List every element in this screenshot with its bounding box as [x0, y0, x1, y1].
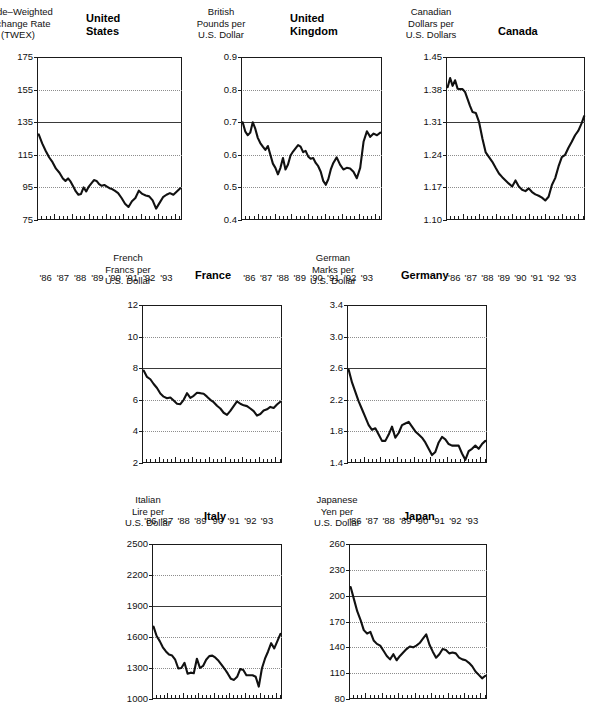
y-tick-label-italy: 2500 — [108, 539, 148, 549]
series-svg-united-states — [37, 57, 182, 220]
data-series-japan — [351, 587, 486, 678]
plot-area-france — [142, 305, 282, 463]
series-svg-france — [142, 305, 282, 463]
series-svg-italy — [152, 544, 282, 699]
y-tick-label-canada: 1.31 — [402, 117, 442, 127]
y-tick-label-japan: 260 — [305, 539, 345, 549]
panel-title-italy: Italy — [204, 510, 226, 523]
y-tick-label-france: 12 — [98, 300, 138, 310]
y-tick-label-united-states: 175 — [0, 52, 33, 62]
x-tick-label-canada: '92 — [547, 273, 559, 283]
y-tick-mark — [346, 596, 350, 597]
panel-france: French Francs per U.S. DollarFrance12108… — [100, 250, 300, 482]
y-tick-label-united-kingdom: 0.9 — [197, 52, 237, 62]
y-tick-mark — [344, 463, 348, 464]
series-svg-canada — [446, 57, 585, 220]
x-tick-label-united-states: '86 — [39, 273, 51, 283]
panel-title-canada: Canada — [498, 25, 538, 38]
y-axis-unit-label-united-kingdom: British Pounds per U.S. Dollar — [165, 6, 277, 41]
y-tick-mark — [139, 400, 143, 401]
data-series-canada — [448, 78, 585, 200]
y-tick-mark — [344, 431, 348, 432]
y-tick-label-france: 8 — [98, 363, 138, 373]
panel-header-united-kingdom: British Pounds per U.S. DollarUnited Kin… — [205, 4, 400, 52]
y-axis-unit-label-canada: Canadian Dollars per U.S. Dollars — [375, 6, 487, 41]
y-tick-mark — [139, 305, 143, 306]
panel-japan: Japanese Yen per U.S. DollarJapan2602302… — [305, 492, 505, 710]
y-tick-label-canada: 1.17 — [402, 182, 442, 192]
y-tick-mark — [443, 57, 447, 58]
plot-area-canada — [446, 57, 585, 220]
y-tick-label-united-states: 95 — [0, 182, 33, 192]
y-tick-label-france: 2 — [98, 458, 138, 468]
y-tick-label-italy: 2200 — [108, 570, 148, 580]
panel-header-france: French Francs per U.S. DollarFrance — [100, 250, 300, 298]
y-tick-mark — [149, 668, 153, 669]
y-tick-label-germany: 1.8 — [303, 426, 343, 436]
y-tick-mark — [34, 187, 38, 188]
y-tick-mark — [346, 647, 350, 648]
y-tick-mark — [346, 622, 350, 623]
y-tick-label-france: 10 — [98, 332, 138, 342]
y-tick-label-italy: 1300 — [108, 663, 148, 673]
y-tick-mark — [443, 155, 447, 156]
y-tick-mark — [139, 368, 143, 369]
y-tick-mark — [238, 220, 242, 221]
y-tick-label-japan: 170 — [305, 617, 345, 627]
panel-canada: Canadian Dollars per U.S. DollarsCanada1… — [405, 4, 593, 242]
data-series-united-states — [39, 134, 181, 208]
y-tick-mark — [149, 699, 153, 700]
y-tick-mark — [238, 122, 242, 123]
y-tick-label-united-states: 115 — [0, 150, 33, 160]
x-tick-label-united-states: '87 — [57, 273, 69, 283]
panel-header-italy: Italian Lire per U.S. DollarItaly — [100, 492, 300, 540]
panel-title-france: France — [195, 269, 231, 282]
y-tick-mark — [149, 606, 153, 607]
y-tick-mark — [346, 544, 350, 545]
y-tick-label-germany: 2.6 — [303, 363, 343, 373]
y-tick-mark — [149, 637, 153, 638]
data-series-france — [144, 371, 281, 416]
y-tick-mark — [238, 90, 242, 91]
plot-area-united-kingdom — [241, 57, 382, 220]
y-tick-label-germany: 1.4 — [303, 458, 343, 468]
panel-header-canada: Canadian Dollars per U.S. DollarsCanada — [405, 4, 593, 52]
plot-area-japan — [349, 544, 487, 699]
y-tick-mark — [344, 368, 348, 369]
x-tick-label-canada: '90 — [514, 273, 526, 283]
panel-italy: Italian Lire per U.S. DollarItaly2500220… — [100, 492, 300, 710]
y-tick-label-canada: 1.38 — [402, 85, 442, 95]
y-tick-mark — [238, 187, 242, 188]
y-tick-label-united-kingdom: 0.7 — [197, 117, 237, 127]
y-tick-label-france: 6 — [98, 395, 138, 405]
data-series-italy — [154, 627, 281, 687]
y-tick-mark — [346, 673, 350, 674]
y-tick-mark — [344, 400, 348, 401]
y-tick-label-united-states: 155 — [0, 85, 33, 95]
y-tick-label-united-kingdom: 0.5 — [197, 182, 237, 192]
y-tick-label-united-kingdom: 0.6 — [197, 150, 237, 160]
y-axis-unit-label-japan: Japanese Yen per U.S. Dollar — [281, 494, 393, 529]
data-series-united-kingdom — [243, 122, 381, 185]
y-axis-unit-label-france: French Francs per U.S. Dollar — [72, 252, 184, 287]
series-svg-united-kingdom — [241, 57, 382, 220]
y-tick-mark — [443, 220, 447, 221]
y-tick-label-japan: 200 — [305, 591, 345, 601]
y-axis-unit-label-germany: German Marks per U.S. Dollar — [277, 252, 389, 287]
y-tick-mark — [238, 57, 242, 58]
y-tick-label-france: 4 — [98, 426, 138, 436]
panel-title-germany: Germany — [401, 269, 449, 282]
y-tick-mark — [139, 431, 143, 432]
x-tick-label-canada: '91 — [531, 273, 543, 283]
y-tick-mark — [139, 337, 143, 338]
y-tick-mark — [149, 544, 153, 545]
y-tick-label-japan: 230 — [305, 565, 345, 575]
y-tick-mark — [238, 155, 242, 156]
y-tick-label-united-states: 135 — [0, 117, 33, 127]
series-svg-germany — [347, 305, 487, 463]
y-tick-mark — [346, 699, 350, 700]
panel-title-japan: Japan — [403, 510, 435, 523]
y-axis-unit-label-united-states: Trade–Weighted Exchange Rate (TWEX) — [0, 6, 74, 41]
y-tick-mark — [443, 90, 447, 91]
data-series-germany — [349, 370, 486, 460]
